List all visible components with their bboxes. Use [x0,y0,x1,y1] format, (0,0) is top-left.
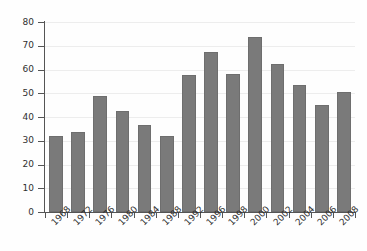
bar-1988 [160,136,174,212]
y-tick-label: 30 [23,136,34,145]
bar-chart: 01020304050607080 1968197219761980198419… [0,0,367,251]
bar-1996 [204,52,218,212]
y-tick-mark [38,141,44,142]
y-tick-mark [38,70,44,71]
bar-2002 [271,64,285,212]
y-tick-label: 20 [23,160,34,169]
x-tick-mark [45,213,46,218]
y-tick-mark [38,212,44,213]
y-tick-mark [38,165,44,166]
y-tick-label: 10 [23,184,34,193]
bars-layer [45,22,355,212]
bar-1992 [182,75,196,212]
bar-2000 [248,37,262,212]
y-tick-mark [38,117,44,118]
y-tick-mark [38,46,44,47]
y-tick-label: 80 [23,18,34,27]
bar-1976 [93,96,107,212]
bar-2006 [315,105,329,212]
y-tick-mark [38,93,44,94]
y-tick-label: 50 [23,89,34,98]
y-tick-mark [38,22,44,23]
bar-1972 [71,132,85,212]
y-tick-label: 40 [23,113,34,122]
y-axis-line [44,21,45,213]
y-tick-mark [38,188,44,189]
y-tick-label: 0 [28,208,34,217]
bar-1968 [49,136,63,212]
y-tick-label: 60 [23,65,34,74]
bar-1984 [138,125,152,212]
y-tick-label: 70 [23,41,34,50]
bar-1980 [116,111,130,212]
bar-2004 [293,85,307,212]
bar-1998 [226,74,240,212]
bar-2008 [337,92,351,212]
